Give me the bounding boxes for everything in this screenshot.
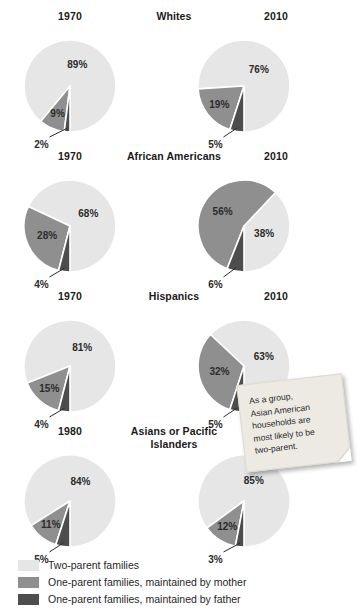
pie-label-mother: 32% <box>209 366 229 377</box>
legend-two-parent: Two-parent families <box>18 557 348 573</box>
pie-african-americans-1970: 68%28%4% <box>12 178 152 298</box>
pie-whites-1970: 89%9%2% <box>12 38 152 158</box>
legend-mother-swatch <box>18 577 39 588</box>
pie-row-african-americans: 1970African Americans201068%28%4%38%56%6… <box>0 148 361 283</box>
family-structure-pie-figure: 1970Whites201089%9%2%76%19%5%1970African… <box>0 0 361 608</box>
year-label-right-african-americans: 2010 <box>228 150 324 163</box>
pie-label-two-parent: 89% <box>67 59 87 70</box>
pie-label-mother: 15% <box>39 383 59 394</box>
pie-label-mother: 12% <box>217 521 237 532</box>
legend-father: One-parent families, maintained by fathe… <box>18 591 348 607</box>
pie-chart: 89%9%2% <box>12 38 152 158</box>
group-label-hispanics: Hispanics <box>118 290 230 303</box>
chart-legend: Two-parent familiesOne-parent families, … <box>18 557 348 608</box>
pie-whites-2010: 76%19%5% <box>186 38 326 158</box>
pie-chart: 76%19%5% <box>186 38 326 158</box>
pie-label-two-parent: 76% <box>249 64 269 75</box>
pie-chart: 38%56%6% <box>186 178 326 298</box>
pie-label-mother: 19% <box>209 99 229 110</box>
legend-two-parent-label: Two-parent families <box>48 559 139 572</box>
pie-label-two-parent: 85% <box>244 475 264 486</box>
pie-chart: 68%28%4% <box>12 178 152 298</box>
pie-label-mother: 28% <box>37 230 57 241</box>
pie-label-two-parent: 63% <box>254 351 274 362</box>
pie-label-two-parent: 81% <box>72 342 92 353</box>
year-label-left-asians-or-pacific-islanders: 1980 <box>22 425 118 438</box>
pie-asians-or-pacific-islanders-1980: 84%11%5% <box>12 453 152 573</box>
sticky-note-fold <box>337 448 351 462</box>
pie-label-mother: 11% <box>41 519 61 530</box>
legend-father-swatch <box>18 594 39 605</box>
pie-african-americans-2010: 38%56%6% <box>186 178 326 298</box>
pie-label-two-parent: 84% <box>70 476 90 487</box>
legend-mother: One-parent families, maintained by mothe… <box>18 574 348 590</box>
year-label-left-hispanics: 1970 <box>22 290 118 303</box>
sticky-note-annotation: As a group, Asian American households ar… <box>236 373 351 472</box>
year-label-left-whites: 1970 <box>22 10 118 23</box>
year-label-right-whites: 2010 <box>228 10 324 23</box>
group-label-asians-or-pacific-islanders: Asians or Pacific Islanders <box>118 425 230 451</box>
pie-label-mother: 9% <box>50 108 65 119</box>
pie-chart: 81%15%4% <box>12 318 152 438</box>
year-label-left-african-americans: 1970 <box>22 150 118 163</box>
group-label-african-americans: African Americans <box>118 150 230 163</box>
pie-label-two-parent: 68% <box>78 208 98 219</box>
legend-father-label: One-parent families, maintained by fathe… <box>48 593 241 606</box>
pie-label-mother: 56% <box>213 206 233 217</box>
pie-label-two-parent: 38% <box>254 228 274 239</box>
group-label-whites: Whites <box>118 10 230 23</box>
legend-mother-label: One-parent families, maintained by mothe… <box>48 576 246 589</box>
year-label-right-hispanics: 2010 <box>228 290 324 303</box>
pie-chart: 84%11%5% <box>12 453 152 573</box>
pie-hispanics-1970: 81%15%4% <box>12 318 152 438</box>
legend-two-parent-swatch <box>18 560 39 571</box>
pie-row-whites: 1970Whites201089%9%2%76%19%5% <box>0 8 361 143</box>
